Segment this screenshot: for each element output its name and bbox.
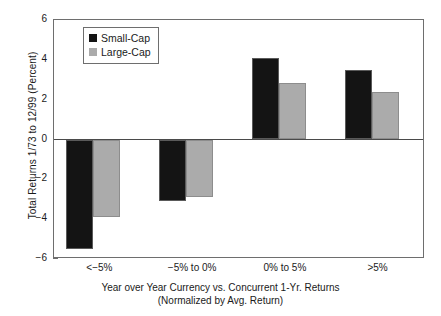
legend: Small-CapLarge-Cap <box>83 27 159 64</box>
y-axis-tick-label: 4 <box>3 54 47 64</box>
x-axis-title-line-1: Year over Year Currency vs. Concurrent 1… <box>101 282 339 293</box>
y-axis-tick-label: −4 <box>3 213 47 223</box>
legend-swatch-icon-small-cap <box>89 34 97 42</box>
zero-baseline <box>54 139 423 140</box>
bar-small-cap-0 <box>66 140 93 250</box>
y-axis-tick-label: 0 <box>3 134 47 144</box>
legend-item-large-cap: Large-Cap <box>89 45 151 59</box>
bar-small-cap-1 <box>159 140 186 202</box>
y-axis-tick-label: 2 <box>3 94 47 104</box>
legend-label: Large-Cap <box>101 47 151 58</box>
bar-large-cap-3 <box>372 92 399 140</box>
x-axis-title: Year over Year Currency vs. Concurrent 1… <box>0 281 441 307</box>
legend-swatch-icon-large-cap <box>89 48 97 56</box>
x-axis-tick-label-3: >5% <box>323 263 433 273</box>
y-axis-tick-label: 6 <box>3 14 47 24</box>
y-axis-tick-label: −6 <box>3 253 47 263</box>
bar-large-cap-2 <box>279 83 306 140</box>
bar-chart: Total Returns 1/73 to 12/99 (Percent) 64… <box>0 0 441 316</box>
bar-large-cap-1 <box>186 140 213 198</box>
legend-item-small-cap: Small-Cap <box>89 31 151 45</box>
bar-small-cap-3 <box>345 70 372 140</box>
bar-small-cap-2 <box>252 58 279 140</box>
x-axis-title-line-2: (Normalized by Avg. Return) <box>0 294 441 307</box>
bar-large-cap-0 <box>93 140 120 218</box>
y-axis-tick-mark <box>53 258 58 259</box>
y-axis-tick-label: −2 <box>3 173 47 183</box>
legend-label: Small-Cap <box>101 33 150 44</box>
